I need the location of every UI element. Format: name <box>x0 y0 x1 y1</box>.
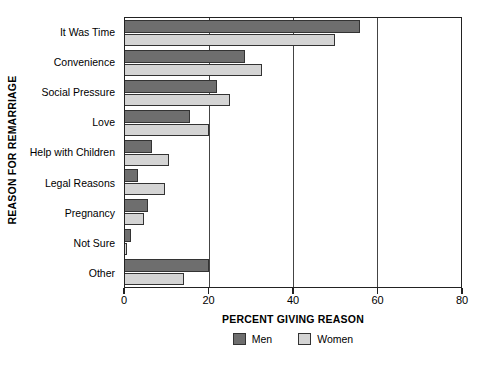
category-label: Pregnancy <box>20 198 120 228</box>
bar-women <box>125 64 262 76</box>
bar-men <box>125 50 245 63</box>
bar-group <box>125 257 461 287</box>
bar-group <box>125 18 461 48</box>
bar-women <box>125 154 169 166</box>
x-axis-title: PERCENT GIVING REASON <box>124 313 462 325</box>
bar-men <box>125 140 152 153</box>
bar-women <box>125 124 209 136</box>
category-axis-labels: It Was TimeConvenienceSocial PressureLov… <box>20 17 120 288</box>
category-label: Social Pressure <box>20 77 120 107</box>
bar-men <box>125 169 138 182</box>
bar-group <box>125 78 461 108</box>
bar-group <box>125 167 461 197</box>
bars-layer <box>125 18 461 287</box>
y-axis-title-text: REASON FOR REMARRIAGE <box>6 76 18 225</box>
x-axis-tick-labels: 020406080 <box>124 294 462 310</box>
bar-group <box>125 48 461 78</box>
bar-men <box>125 20 360 33</box>
bar-women <box>125 183 165 195</box>
legend-swatch-icon <box>298 333 311 345</box>
x-tick-label: 60 <box>371 294 383 306</box>
bar-group <box>125 108 461 138</box>
bar-women <box>125 273 184 285</box>
x-tick-label: 80 <box>456 294 468 306</box>
bar-group <box>125 138 461 168</box>
legend-item: Men <box>233 333 272 345</box>
category-label: Not Sure <box>20 228 120 258</box>
x-tick-label: 20 <box>202 294 214 306</box>
bar-women <box>125 94 230 106</box>
bar-women <box>125 243 127 255</box>
bar-men <box>125 110 190 123</box>
plot-area <box>124 17 462 288</box>
plot-inner <box>125 18 461 287</box>
bar-women <box>125 213 144 225</box>
x-tick-label: 0 <box>121 294 127 306</box>
legend-item: Women <box>298 333 353 345</box>
category-label: Convenience <box>20 47 120 77</box>
x-tick-label: 40 <box>287 294 299 306</box>
category-label: Other <box>20 258 120 288</box>
bar-group <box>125 197 461 227</box>
category-label: It Was Time <box>20 17 120 47</box>
bar-group <box>125 227 461 257</box>
legend-swatch-icon <box>233 333 246 345</box>
legend-label: Men <box>252 333 272 345</box>
chart-legend: MenWomen <box>124 333 462 345</box>
bar-women <box>125 34 335 46</box>
category-label: Legal Reasons <box>20 168 120 198</box>
bar-men <box>125 199 148 212</box>
bar-men <box>125 80 217 93</box>
bar-men <box>125 259 209 272</box>
bar-chart: REASON FOR REMARRIAGE It Was TimeConveni… <box>0 0 480 368</box>
category-label: Love <box>20 107 120 137</box>
legend-label: Women <box>317 333 353 345</box>
category-label: Help with Children <box>20 137 120 167</box>
bar-men <box>125 229 131 242</box>
